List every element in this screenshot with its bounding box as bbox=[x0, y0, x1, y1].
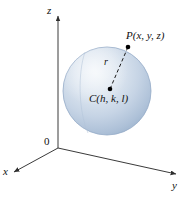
y-axis-label: y bbox=[172, 180, 177, 191]
x-axis-label: x bbox=[3, 166, 8, 177]
radius-label: r bbox=[104, 57, 108, 67]
z-axis-label: z bbox=[47, 5, 51, 16]
y-axis-line bbox=[58, 148, 176, 174]
center-point-label: C(h, k, l) bbox=[89, 93, 128, 104]
x-axis-line bbox=[14, 148, 58, 172]
surface-point-dot bbox=[126, 45, 131, 50]
origin-label: 0 bbox=[44, 136, 50, 147]
center-point-dot bbox=[108, 87, 113, 92]
surface-point-label: P(x, y, z) bbox=[126, 30, 164, 41]
sphere-diagram: z x y 0 P(x, y, z) C(h, k, l) r bbox=[0, 0, 185, 197]
